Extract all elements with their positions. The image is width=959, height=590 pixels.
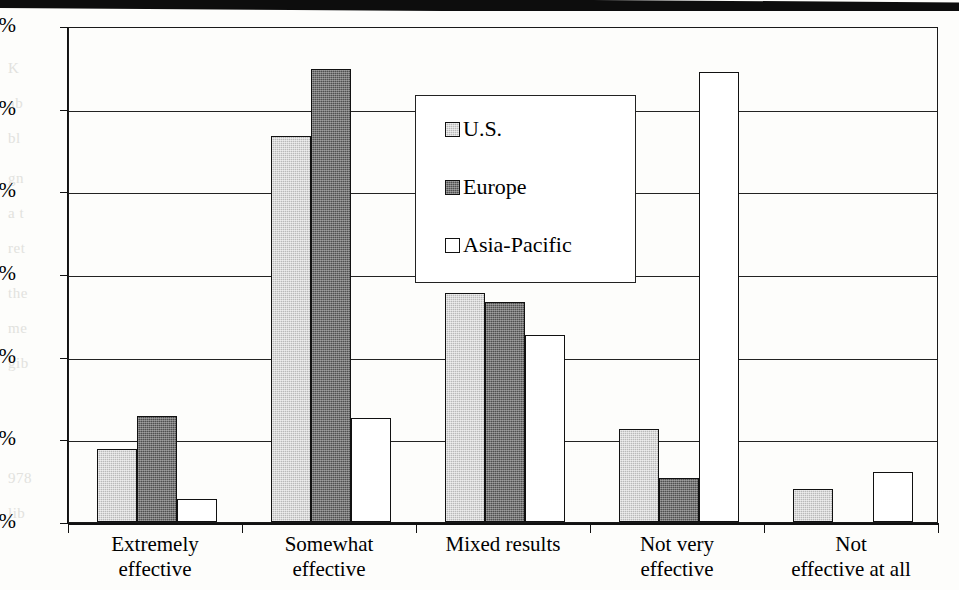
x-axis-label-line: effective [242,557,416,582]
y-axis-label-0: 0% [0,511,16,532]
legend-item-us: U.S. [445,118,502,140]
x-tick [938,523,939,533]
y-axis-label-30: 30% [0,263,16,284]
legend-item-europe: Europe [445,176,527,198]
y-axis-label-40: 40% [0,180,16,201]
legend-label-asia-pacific: Asia-Pacific [463,234,572,256]
x-axis-label-0: Extremelyeffective [68,532,242,582]
bar-ap-4 [873,472,913,522]
bar-us-2 [445,293,485,522]
y-axis-label-20: 20% [0,346,16,367]
bar-eu-2 [485,302,525,522]
x-axis-label-line: Not [764,532,938,557]
bar-eu-3 [659,478,699,522]
bar-us-3 [619,429,659,522]
x-axis-line [68,523,939,525]
bar-us-0 [97,449,137,522]
x-axis-label-1: Somewhateffective [242,532,416,582]
legend-label-us: U.S. [463,118,502,140]
y-axis-label-50: 50% [0,98,16,119]
legend-swatch-asia-pacific-icon [445,238,460,253]
bar-ap-0 [177,499,217,522]
chart-legend: U.S. Europe Asia-Pacific [415,95,636,283]
x-axis-label-3: Not veryeffective [590,532,764,582]
x-axis-label-2: Mixed results [416,532,590,557]
bar-ap-1 [351,418,391,522]
bar-eu-0 [137,416,177,522]
y-axis-label-60: 60% [0,15,16,36]
x-axis-label-line: Mixed results [416,532,590,557]
legend-swatch-us-icon [445,122,460,137]
x-axis-label-line: effective [590,557,764,582]
legend-label-europe: Europe [463,176,527,198]
y-axis-label-10: 10% [0,428,16,449]
x-axis-label-line: Extremely [68,532,242,557]
x-axis-label-line: Not very [590,532,764,557]
bar-ap-2 [525,335,565,522]
x-axis-label-4: Noteffective at all [764,532,938,582]
bar-ap-3 [699,72,739,522]
bar-chart: 0%10%20%30%40%50%60% ExtremelyeffectiveS… [0,0,959,590]
scanned-page: Kabblgna tretthemegib978lib 0%10%20%30%4… [0,0,959,590]
legend-swatch-europe-icon [445,180,460,195]
bar-us-4 [793,489,833,522]
bar-us-1 [271,136,311,522]
legend-item-asia-pacific: Asia-Pacific [445,234,572,256]
x-axis-label-line: effective [68,557,242,582]
x-axis-label-line: effective at all [764,557,938,582]
bar-eu-1 [311,69,351,522]
x-axis-label-line: Somewhat [242,532,416,557]
